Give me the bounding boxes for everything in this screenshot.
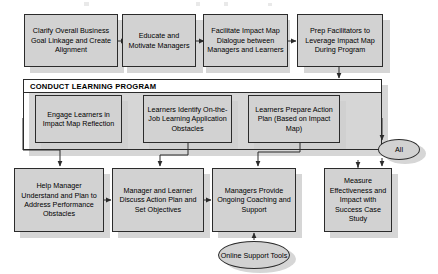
node-label: Help Manager Understand and Plan to Addr…	[17, 181, 101, 219]
node-label: Facilitate Impact Map Dialogue between M…	[206, 26, 285, 54]
node-engage-learners[interactable]: Engage Learners in Impact Map Reflection	[35, 95, 122, 143]
node-clarify-goal[interactable]: Clarify Overall Business Goal Linkage an…	[24, 14, 118, 67]
node-label: Clarify Overall Business Goal Linkage an…	[27, 26, 115, 54]
ellipse-online-support-tools[interactable]: Online Support Tools	[218, 241, 290, 269]
node-prep-facilitators[interactable]: Prep Facilitators to Leverage Impact Map…	[297, 14, 383, 67]
node-label: Managers Provide Ongoing Coaching and Su…	[215, 186, 293, 214]
node-facilitate-dialogue[interactable]: Facilitate Impact Map Dialogue between M…	[203, 14, 288, 67]
ellipse-all-gate[interactable]: All	[378, 139, 420, 160]
node-measure-effectiveness[interactable]: Measure Effectiveness and Impact with Su…	[324, 168, 392, 232]
node-label: Measure Effectiveness and Impact with Su…	[327, 176, 389, 223]
node-help-manager[interactable]: Help Manager Understand and Plan to Addr…	[14, 168, 104, 232]
node-prepare-action-plan[interactable]: Learners Prepare Action Plan (Based on I…	[248, 95, 340, 143]
node-educate-managers[interactable]: Educate and Motivate Managers	[122, 14, 196, 67]
node-label: Educate and Motivate Managers	[125, 31, 193, 50]
node-label: Learners Identify On-the-Job Learning Ap…	[146, 105, 229, 133]
conduct-learning-program-header: CONDUCT LEARNING PROGRAM	[23, 79, 382, 93]
group-header-label: CONDUCT LEARNING PROGRAM	[30, 82, 156, 91]
node-ongoing-coaching[interactable]: Managers Provide Ongoing Coaching and Su…	[212, 168, 296, 232]
node-label: Learners Prepare Action Plan (Based on I…	[251, 105, 337, 133]
node-label: Prep Facilitators to Leverage Impact Map…	[300, 26, 380, 54]
ellipse-label: All	[395, 145, 403, 154]
node-label: Manager and Learner Discuss Action Plan …	[115, 186, 201, 214]
node-label: Engage Learners in Impact Map Reflection	[38, 110, 119, 129]
flowchart-canvas: Clarify Overall Business Goal Linkage an…	[0, 0, 438, 274]
node-discuss-action-plan[interactable]: Manager and Learner Discuss Action Plan …	[112, 168, 204, 232]
ellipse-label: Online Support Tools	[221, 251, 288, 260]
node-identify-obstacles[interactable]: Learners Identify On-the-Job Learning Ap…	[143, 95, 232, 143]
